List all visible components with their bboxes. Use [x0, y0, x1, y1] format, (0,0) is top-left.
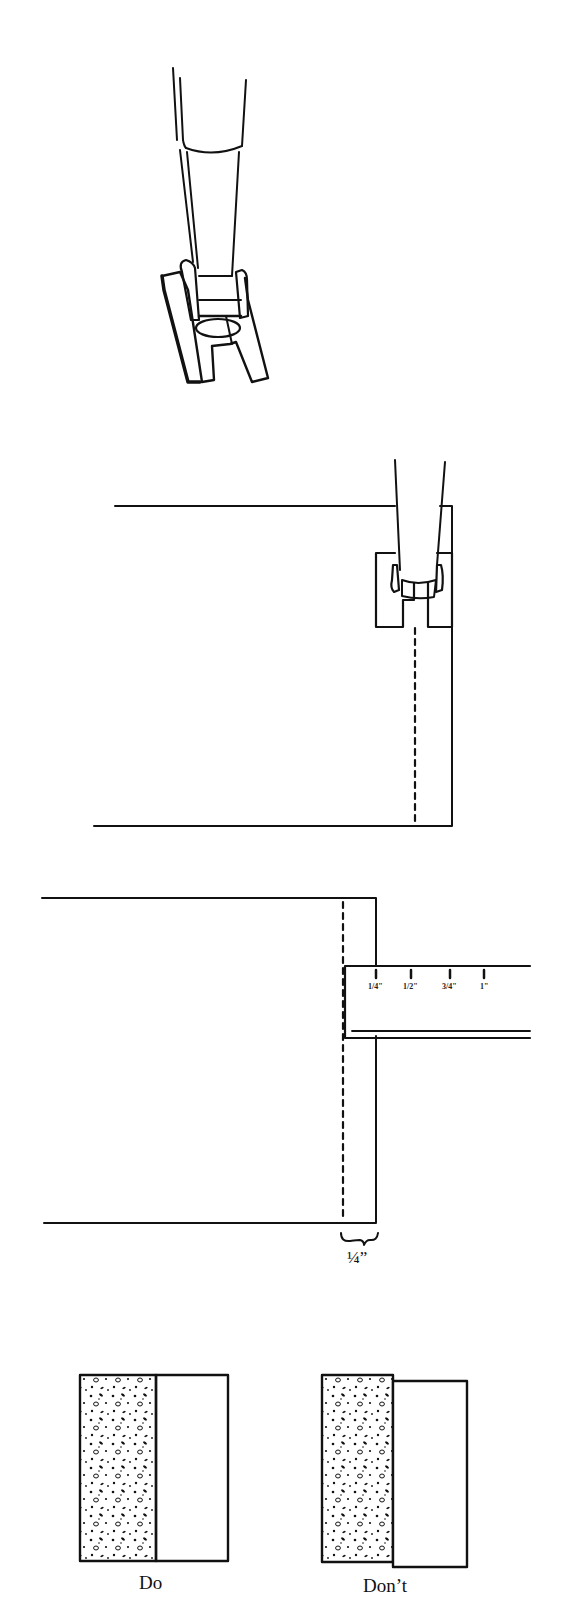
do-textured-fabric	[80, 1375, 156, 1561]
do-dont-figure	[0, 0, 564, 1619]
dont-label: Don’t	[363, 1575, 407, 1597]
do-label: Do	[139, 1572, 162, 1594]
dont-textured-fabric	[322, 1375, 393, 1562]
do-plain-fabric	[156, 1375, 228, 1561]
dont-plain-fabric	[393, 1381, 467, 1567]
